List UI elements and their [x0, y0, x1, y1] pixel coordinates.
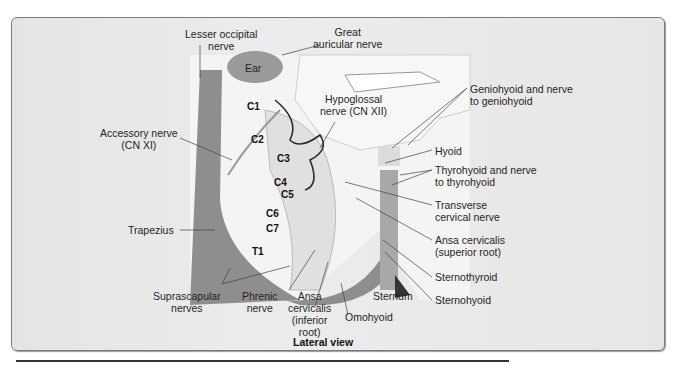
vertebra-label-c5: C5 [281, 189, 294, 200]
label-phrenic-nerve: Phrenic nerve [242, 290, 278, 314]
label-trapezius: Trapezius [128, 224, 174, 236]
label-suprascapular-nerves: Suprascapular nerves [153, 290, 221, 314]
label-sternum: Sternum [373, 290, 413, 302]
strap-muscles [380, 170, 398, 290]
label-ansa-cervicalis-inferior: Ansa cervicalis (inferior root) [288, 290, 331, 338]
vertebra-label-c6: C6 [266, 208, 279, 219]
view-caption: Lateral view [293, 336, 353, 348]
label-hypoglossal-nerve: Hypoglossal nerve (CN XII) [320, 93, 387, 117]
vertebra-label-c3: C3 [277, 153, 290, 164]
label-omohyoid: Omohyoid [345, 311, 393, 323]
vertebra-label-c7: C7 [266, 223, 279, 234]
label-sternohyoid: Sternohyoid [435, 294, 491, 306]
label-ansa-cervicalis-superior: Ansa cervicalis (superior root) [435, 234, 505, 258]
vertebra-label-c1: C1 [247, 101, 260, 112]
label-thyrohyoid: Thyrohyoid and nerve to thyrohyoid [435, 164, 537, 188]
label-great-auricular-nerve: Great auricular nerve [313, 26, 382, 50]
label-lesser-occipital-nerve: Lesser occipital nerve [185, 28, 257, 52]
label-sternothyroid: Sternothyroid [435, 271, 497, 283]
vertebra-label-c4: C4 [274, 177, 287, 188]
label-hyoid: Hyoid [435, 145, 462, 157]
neck-anatomy-illustration [0, 0, 673, 375]
hyoid-bone [378, 146, 400, 166]
vertebra-label-t1: T1 [252, 246, 264, 257]
label-accessory-nerve: Accessory nerve (CN XI) [100, 127, 178, 151]
vertebra-label-c2: C2 [251, 134, 264, 145]
label-geniohyoid: Geniohyoid and nerve to geniohyoid [470, 83, 573, 107]
label-ear: Ear [245, 62, 261, 74]
label-transverse-cervical-nerve: Transverse cervical nerve [435, 199, 500, 223]
horizontal-rule [16, 360, 509, 362]
